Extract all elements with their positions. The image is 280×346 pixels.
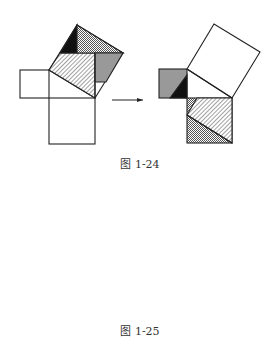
diagram-canvas <box>0 0 280 346</box>
large-leg-square <box>49 98 95 144</box>
black-piece <box>60 25 77 53</box>
fig-1-24-right <box>159 24 260 143</box>
gray-piece <box>95 53 123 82</box>
white-hypotenuse-square <box>187 24 260 98</box>
fig-1-24-left <box>20 25 123 144</box>
hatched-piece <box>49 53 95 98</box>
caption-fig-1-25: 图 1-25 <box>0 322 280 338</box>
small-leg-square <box>20 70 49 98</box>
caption-fig-1-24: 图 1-24 <box>0 155 280 171</box>
checked-piece <box>77 25 123 53</box>
